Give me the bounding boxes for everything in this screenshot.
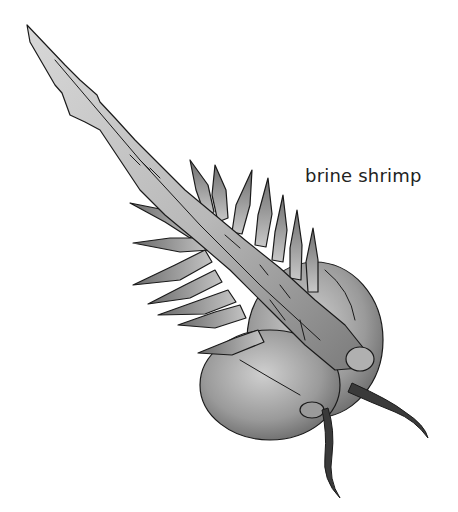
brine-shrimp-drawing — [0, 0, 458, 512]
diagram-canvas — [0, 0, 458, 512]
figure-label: brine shrimp — [305, 165, 422, 186]
